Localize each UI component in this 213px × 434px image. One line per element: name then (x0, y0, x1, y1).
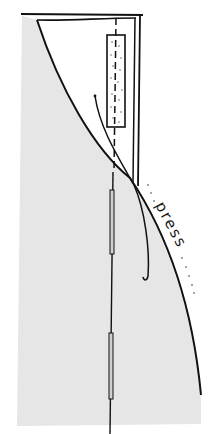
thread-knot (94, 95, 97, 98)
pressing-diagram: press (0, 0, 213, 434)
press-dots-trailing (181, 257, 195, 294)
right-edge-outer (138, 15, 140, 186)
seam-slot-lower (109, 333, 113, 399)
interfacing-strip (107, 35, 125, 127)
top-edge (21, 14, 143, 15)
press-dots-leading (147, 184, 155, 202)
seam-slot-upper (110, 190, 114, 254)
